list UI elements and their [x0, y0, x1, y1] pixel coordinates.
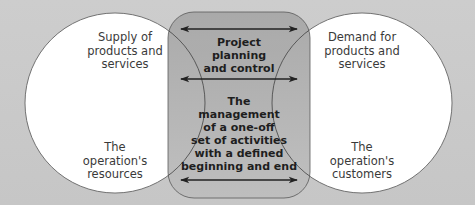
project-planning-label: Project planning and control: [179, 36, 299, 75]
supply-label: Supply of products and services: [70, 31, 180, 72]
resources-label: The operation's resources: [60, 141, 170, 182]
project-management-diagram: Supply of products and services The oper…: [0, 0, 475, 205]
project-definition-label: The management of a one-off set of activ…: [174, 95, 304, 173]
demand-label: Demand for products and services: [307, 31, 417, 72]
customers-label: The operation's customers: [307, 141, 417, 182]
